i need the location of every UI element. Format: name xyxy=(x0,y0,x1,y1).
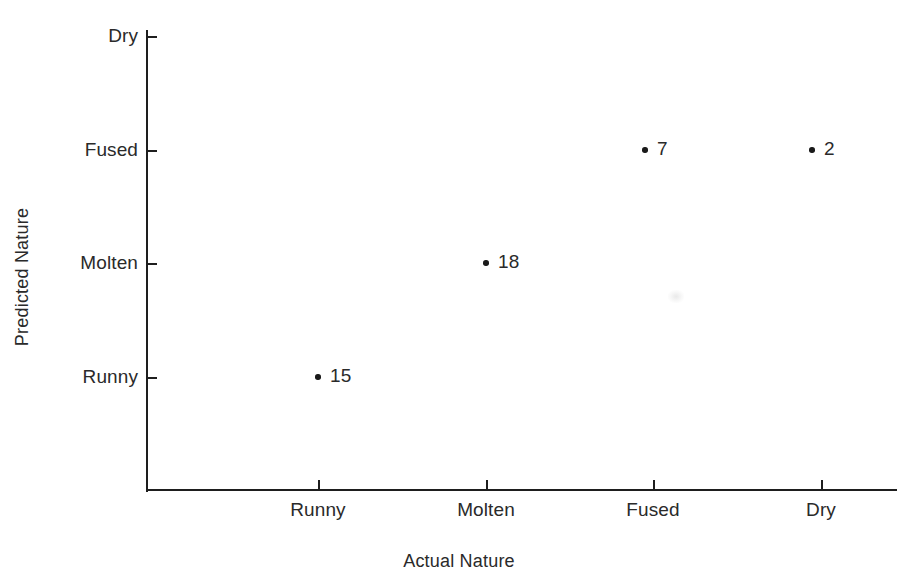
x-axis-title: Actual Nature xyxy=(0,552,918,570)
x-axis-line xyxy=(146,489,897,491)
scan-artifact xyxy=(668,290,684,303)
y-tick-dry xyxy=(148,36,157,38)
x-tick-molten xyxy=(486,480,488,489)
point-value-label: 15 xyxy=(330,366,352,385)
y-tick-molten xyxy=(148,263,157,265)
y-tick-fused xyxy=(148,150,157,152)
x-tick-label-molten: Molten xyxy=(457,500,515,519)
x-tick-dry xyxy=(821,480,823,489)
point-marker-icon xyxy=(315,374,321,380)
x-tick-label-fused: Fused xyxy=(626,500,679,519)
point-marker-icon xyxy=(642,147,648,153)
point-marker-icon xyxy=(809,147,815,153)
x-tick-fused xyxy=(653,480,655,489)
y-tick-label-runny: Runny xyxy=(8,367,138,386)
y-axis-line xyxy=(146,30,148,492)
y-tick-label-dry: Dry xyxy=(8,26,138,45)
point-value-label: 18 xyxy=(498,252,520,271)
x-tick-runny xyxy=(318,480,320,489)
y-tick-label-fused: Fused xyxy=(8,140,138,159)
point-marker-icon xyxy=(483,260,489,266)
point-value-label: 7 xyxy=(657,139,668,158)
x-tick-label-dry: Dry xyxy=(806,500,836,519)
y-axis-title: Predicted Nature xyxy=(13,192,31,362)
y-tick-runny xyxy=(148,377,157,379)
point-value-label: 2 xyxy=(824,139,835,158)
chart-canvas: Dry Fused Molten Runny Runny Molten Fuse… xyxy=(0,0,918,587)
x-tick-label-runny: Runny xyxy=(290,500,345,519)
